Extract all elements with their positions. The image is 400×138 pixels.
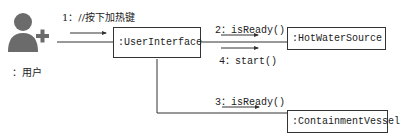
message-4-label: 4：start() [219, 52, 277, 67]
message-3-label: 3：isReady() [215, 93, 285, 108]
user-add-icon [8, 13, 49, 52]
object-hot-water-source[interactable]: :HotWaterSource [287, 27, 386, 50]
message-2-label: 2：isReady() [215, 21, 285, 36]
actor-label: ：用户 [12, 64, 42, 79]
object-label: :ContainmentVessel [292, 116, 400, 127]
object-containment-vessel[interactable]: :ContainmentVessel [287, 110, 388, 133]
message-1-label: 1：//按下加热键 [62, 9, 135, 24]
object-label: :UserInterface [118, 37, 202, 48]
object-label: :HotWaterSource [292, 33, 382, 44]
object-user-interface[interactable]: :UserInterface [113, 27, 201, 58]
